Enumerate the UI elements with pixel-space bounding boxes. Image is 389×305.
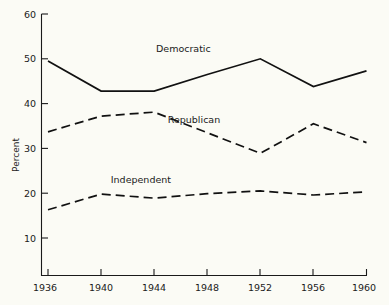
series-line-democratic <box>48 59 367 91</box>
y-tick-label-10: 10 <box>24 233 36 244</box>
x-tick-label-1956: 1956 <box>301 282 325 293</box>
y-tick-label-40: 40 <box>24 98 36 109</box>
data-series-layer <box>48 59 367 210</box>
y-tick-label-60: 60 <box>24 9 36 20</box>
series-label-independent: Independent <box>111 174 171 185</box>
x-tick-marks <box>48 269 367 276</box>
x-tick-label-1948: 1948 <box>195 282 219 293</box>
x-tick-label-1960: 1960 <box>352 282 376 293</box>
series-line-independent <box>48 191 367 210</box>
x-tick-label-1952: 1952 <box>248 282 272 293</box>
x-tick-label-1940: 1940 <box>89 282 113 293</box>
y-tick-label-30: 30 <box>24 143 36 154</box>
y-tick-marks <box>42 14 49 238</box>
y-axis-title: Percent <box>11 138 21 172</box>
x-tick-label-1936: 1936 <box>33 282 57 293</box>
line-chart-plot: Percent 60 50 40 30 20 10 <box>0 0 389 305</box>
series-label-republican: Republican <box>168 114 220 125</box>
series-label-democratic: Democratic <box>156 43 211 54</box>
chart-container: Percent 60 50 40 30 20 10 <box>0 0 389 305</box>
y-tick-label-20: 20 <box>24 188 36 199</box>
x-tick-label-1944: 1944 <box>142 282 166 293</box>
y-tick-label-50: 50 <box>24 53 36 64</box>
y-tick-labels: 60 50 40 30 20 10 <box>24 9 36 244</box>
series-annotation-layer: DemocraticRepublicanIndependent <box>111 43 220 185</box>
x-tick-labels: 1936 1940 1944 1948 1952 1956 1960 <box>33 282 376 293</box>
